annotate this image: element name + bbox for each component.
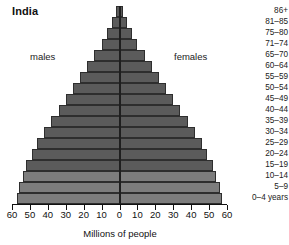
age-group-label: 71–74 (265, 39, 288, 48)
bar-male (19, 182, 119, 193)
x-axis-tick-label: 10 (96, 209, 107, 220)
age-group-label: 20–24 (265, 149, 288, 158)
bar-female (120, 193, 222, 204)
age-group-label: 15–19 (265, 160, 288, 169)
bar-female (120, 94, 174, 105)
age-group-label: 0–4 years (252, 193, 288, 202)
x-axis-tick-labels: 6050403020100102030405060 (0, 209, 245, 222)
x-axis-title: Millions of people (0, 228, 240, 239)
bar-female (120, 83, 167, 94)
age-group-label: 55–59 (265, 72, 288, 81)
center-axis-line (119, 6, 120, 204)
bar-female (120, 149, 208, 160)
age-group-label: 75–80 (265, 28, 288, 37)
x-axis-tick-label: 20 (78, 209, 89, 220)
bar-female (120, 127, 195, 138)
x-axis-tick-label: 0 (117, 209, 122, 220)
bar-male (102, 39, 120, 50)
x-axis-tick-label: 30 (60, 209, 71, 220)
x-axis-tick-label: 10 (132, 209, 143, 220)
x-axis-tick-label: 40 (186, 209, 197, 220)
bar-female (120, 105, 181, 116)
bar-male (26, 160, 119, 171)
age-group-axis: 86+81–8575–8071–7465–7060–6455–5950–5445… (232, 6, 289, 204)
bar-female (120, 39, 138, 50)
bar-female (120, 160, 213, 171)
x-axis-tick-label: 20 (150, 209, 161, 220)
age-group-label: 60–64 (265, 61, 288, 70)
bar-female (120, 6, 124, 17)
bar-male (87, 61, 119, 72)
x-axis-tick-label: 50 (25, 209, 36, 220)
bar-female (120, 50, 145, 61)
bar-female (120, 72, 159, 83)
age-group-label: 30–34 (265, 127, 288, 136)
age-group-label: 40–44 (265, 105, 288, 114)
age-group-label: 25–29 (265, 138, 288, 147)
bar-male (32, 149, 120, 160)
bar-male (73, 83, 120, 94)
bar-male (107, 28, 120, 39)
bar-male (66, 94, 120, 105)
plot-area (12, 6, 227, 204)
bar-female (120, 28, 133, 39)
bar-male (37, 138, 119, 149)
x-axis-tick-label: 40 (43, 209, 54, 220)
bar-male (94, 50, 119, 61)
age-group-label: 81–85 (265, 17, 288, 26)
x-axis-tick-label: 60 (222, 209, 233, 220)
bar-female (120, 61, 152, 72)
age-group-label: 5–9 (274, 182, 288, 191)
bar-male (23, 171, 120, 182)
bar-female (120, 138, 202, 149)
bar-female (120, 182, 220, 193)
age-group-label: 10–14 (265, 171, 288, 180)
bar-male (17, 193, 119, 204)
bar-male (44, 127, 119, 138)
age-group-label: 45–49 (265, 94, 288, 103)
age-group-label: 65–70 (265, 50, 288, 59)
age-group-label: 35–39 (265, 116, 288, 125)
bar-female (120, 17, 127, 28)
bar-female (120, 116, 188, 127)
x-axis-tick-label: 30 (168, 209, 179, 220)
x-axis-tick-label: 50 (204, 209, 215, 220)
x-axis-tick-label: 60 (7, 209, 18, 220)
bar-female (120, 171, 217, 182)
population-pyramid-chart: India males females 86+81–8575–8071–7465… (0, 0, 289, 245)
age-group-label: 50–54 (265, 83, 288, 92)
bar-male (80, 72, 119, 83)
bar-male (59, 105, 120, 116)
age-group-label: 86+ (274, 6, 288, 15)
bar-male (51, 116, 119, 127)
